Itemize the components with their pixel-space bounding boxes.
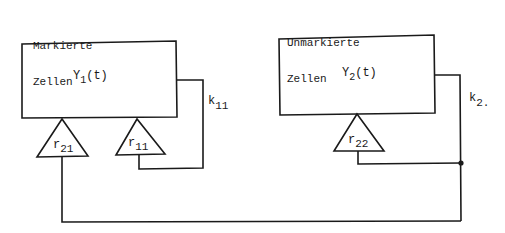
diagram-canvas: Y1(t) Y2(t) k11 k2. r21 r11 r22 (0, 0, 505, 233)
k2-line (435, 75, 461, 221)
amplifier-label-r22: r22 (348, 133, 368, 150)
rate-label-k11: k11 (208, 94, 229, 112)
r22-feedback-line (358, 151, 461, 164)
junction-dot (458, 160, 463, 165)
rate-label-k2: k2. (469, 91, 489, 109)
compartment-label-y2: Y2(t) (342, 66, 377, 83)
r21-return-line (62, 157, 461, 222)
amplifier-label-r21: r21 (53, 138, 74, 155)
compartment-label-y1: Y1(t) (73, 69, 108, 86)
amplifier-label-r11: r11 (128, 136, 149, 153)
k11-loop-line (139, 80, 203, 169)
